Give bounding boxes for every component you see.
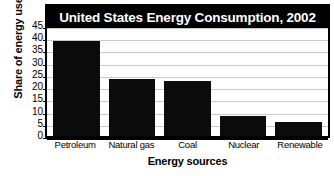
- y-axis-tick-label: 15: [21, 94, 43, 104]
- y-axis-tick-mark: [43, 89, 47, 90]
- chart-frame: United States Energy Consumption, 2002: [45, 4, 330, 138]
- y-axis-tick-label: 10: [21, 107, 43, 117]
- y-axis-tick-mark: [43, 126, 47, 127]
- x-axis-title: Energy sources: [45, 155, 330, 167]
- bar: [164, 81, 211, 136]
- y-axis-tick-label: 45: [21, 21, 43, 31]
- bar-chart-figure: Share of energy use 454035302520151050 U…: [0, 0, 334, 176]
- y-axis-tick-mark: [43, 52, 47, 53]
- y-axis-tick-label: 35: [21, 45, 43, 55]
- x-axis-tick-label: Petroleum: [47, 139, 103, 150]
- y-axis-tick-mark: [43, 114, 47, 115]
- y-axis-tick-mark: [43, 101, 47, 102]
- x-axis-tick-label: Natural gas: [103, 139, 159, 150]
- y-axis-tick-label: 0: [21, 131, 43, 141]
- x-axis-tick-label: Renewable: [272, 139, 328, 150]
- bar: [275, 122, 322, 136]
- x-axis-tick-labels: PetroleumNatural gasCoalNuclearRenewable: [45, 139, 330, 150]
- bar-slot: [271, 28, 326, 136]
- y-axis-tick-label: 20: [21, 82, 43, 92]
- bar-slot: [104, 28, 159, 136]
- y-axis-tick-label: 40: [21, 33, 43, 43]
- y-axis-tick-labels: 454035302520151050: [21, 26, 43, 137]
- y-axis-tick-mark: [43, 77, 47, 78]
- y-axis-tick-marks: [43, 28, 47, 136]
- y-axis-tick-mark: [43, 28, 47, 29]
- chart-title: United States Energy Consumption, 2002: [47, 6, 328, 28]
- bar-series: [47, 28, 328, 136]
- y-axis-tick-label: 30: [21, 58, 43, 68]
- bar: [220, 116, 267, 136]
- bar: [109, 79, 156, 136]
- plot-area: [47, 28, 328, 136]
- bar: [53, 41, 100, 136]
- bar-slot: [49, 28, 104, 136]
- x-axis-tick-label: Nuclear: [216, 139, 272, 150]
- bar-slot: [160, 28, 215, 136]
- y-axis-tick-label: 25: [21, 70, 43, 80]
- y-axis-tick-mark: [43, 40, 47, 41]
- y-axis-tick-label: 5: [21, 119, 43, 129]
- y-axis-tick-mark: [43, 65, 47, 66]
- bar-slot: [215, 28, 270, 136]
- x-axis-tick-label: Coal: [159, 139, 215, 150]
